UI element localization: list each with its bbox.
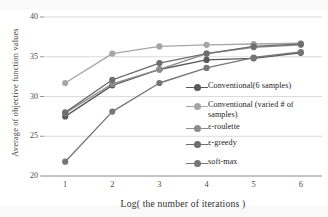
- legend-item[interactable]: Conventional(6 samples): [186, 81, 291, 92]
- data-point-marker: [109, 50, 115, 56]
- legend-item[interactable]: Conventional (varied # of samples): [186, 100, 294, 119]
- data-point-marker: [109, 77, 115, 83]
- data-point-marker: [109, 109, 115, 115]
- legend-marker-icon: [186, 101, 208, 111]
- legend-item[interactable]: ε-greedy: [186, 138, 237, 149]
- data-point-marker: [156, 66, 162, 72]
- data-point-marker: [156, 60, 162, 66]
- data-point-marker: [251, 54, 257, 60]
- legend-marker-icon: [186, 139, 208, 149]
- legend-label: soft-max: [208, 157, 238, 167]
- data-point-marker: [203, 50, 209, 56]
- legend-label: Conventional (varied # of samples): [208, 100, 294, 119]
- legend-label: Conventional(6 samples): [208, 81, 291, 91]
- data-point-marker: [62, 159, 68, 165]
- data-point-marker: [62, 109, 68, 115]
- data-point-marker: [298, 41, 304, 47]
- chart-container: Average of objective function values Log…: [0, 0, 328, 217]
- data-point-marker: [298, 49, 304, 55]
- legend-item[interactable]: ε-roulette: [186, 122, 240, 133]
- legend-marker-icon: [186, 82, 208, 92]
- series-line: [65, 43, 301, 83]
- data-point-marker: [251, 43, 257, 49]
- data-point-marker: [203, 65, 209, 71]
- data-point-marker: [203, 42, 209, 48]
- data-point-marker: [156, 43, 162, 49]
- legend-item[interactable]: soft-max: [186, 157, 238, 168]
- legend-marker-icon: [186, 123, 208, 133]
- data-point-marker: [203, 57, 209, 63]
- legend-label: ε-greedy: [208, 138, 237, 148]
- data-point-marker: [62, 80, 68, 86]
- legend-label: ε-roulette: [208, 122, 240, 132]
- data-point-marker: [156, 80, 162, 86]
- legend-marker-icon: [186, 158, 208, 168]
